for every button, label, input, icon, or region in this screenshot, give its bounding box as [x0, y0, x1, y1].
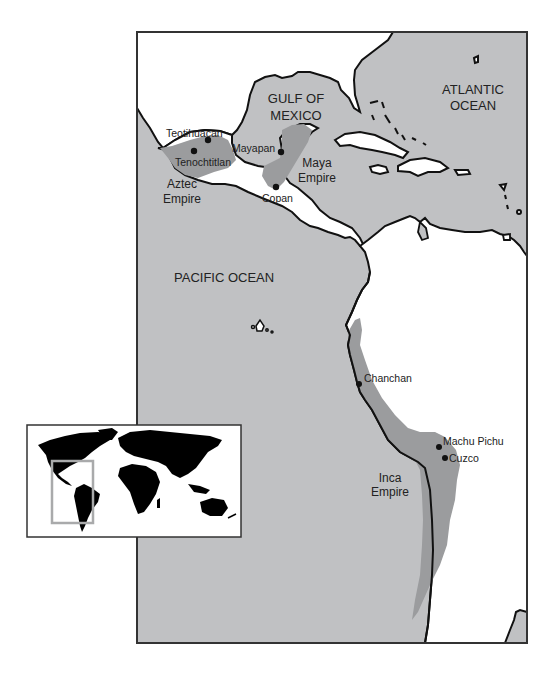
trinidad-island: [503, 234, 510, 240]
svg-text:Cuzco: Cuzco: [449, 452, 479, 464]
svg-text:Tenochtitlan: Tenochtitlan: [175, 156, 231, 168]
city-marker-icon: [273, 184, 279, 190]
inca-empire-label-line2: Empire: [371, 485, 409, 499]
city-marker-icon: [278, 149, 284, 155]
maya-empire-label-line2: Empire: [298, 171, 336, 185]
inca-empire-label: Inca: [379, 471, 402, 485]
city-marker-icon: [436, 444, 442, 450]
svg-text:Teotihuacan: Teotihuacan: [166, 127, 223, 139]
jamaica-island: [370, 165, 388, 174]
gulf-of-mexico-label: GULF OF: [268, 91, 324, 106]
gulf-of-mexico-label-line2: MEXICO: [270, 108, 321, 123]
puerto-rico-island: [455, 170, 470, 175]
atlantic-ocean-label: ATLANTIC: [442, 82, 504, 97]
svg-text:Chanchan: Chanchan: [364, 372, 412, 384]
aztec-empire-label: Aztec: [167, 177, 197, 191]
ancient-americas-map: GULF OF MEXICO ATLANTIC OCEAN PACIFIC OC…: [0, 0, 558, 676]
city-marker-icon: [442, 455, 448, 461]
maya-empire-label: Maya: [302, 156, 332, 170]
pacific-ocean-label: PACIFIC OCEAN: [174, 270, 274, 285]
city-marker-icon: [191, 148, 197, 154]
aztec-empire-label-line2: Empire: [163, 192, 201, 206]
svg-text:Mayapan: Mayapan: [232, 142, 275, 154]
svg-text:Machu Pichu: Machu Pichu: [443, 435, 504, 447]
world-inset-map: [27, 425, 241, 537]
atlantic-ocean-label-line2: OCEAN: [450, 98, 496, 113]
svg-text:Copan: Copan: [262, 192, 293, 204]
city-marker-icon: [356, 381, 362, 387]
